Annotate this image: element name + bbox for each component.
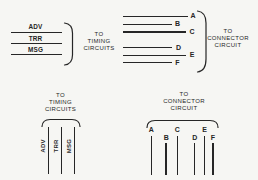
pin-label-d: D <box>175 44 183 51</box>
signal-line-trr <box>11 43 62 44</box>
pin-label-e: E <box>201 126 209 133</box>
pin-label-b: B <box>162 134 170 141</box>
destination-line: CONNECTOR <box>156 98 212 105</box>
destination-line: CIRCUIT <box>202 42 254 49</box>
pin-line-b <box>123 24 172 25</box>
destination-line: TO <box>202 28 254 35</box>
pin-line-a <box>123 16 188 17</box>
pin-line-d <box>123 47 172 48</box>
signal-line-adv <box>11 32 62 33</box>
signal-label-msg: MSG <box>23 46 48 53</box>
pin-line-c <box>177 136 179 176</box>
signal-label-adv: ADV <box>23 23 48 30</box>
destination-line: CIRCUIT <box>156 105 212 112</box>
signal-line-trr <box>61 127 63 174</box>
pin-line-e <box>123 55 186 56</box>
signal-label-adv: ADV <box>39 136 47 156</box>
pin-line-c <box>123 31 186 32</box>
top-brace-icon <box>41 118 81 127</box>
pin-label-b: B <box>174 20 182 27</box>
destination-line: TO <box>40 92 81 99</box>
destination-text-connector: TO CONNECTOR CIRCUIT <box>202 28 254 50</box>
pin-label-d: D <box>191 134 199 141</box>
destination-line: TIMING <box>40 99 81 106</box>
signal-line-msg <box>74 127 76 174</box>
destination-text-timing: TO TIMING CIRCUITS <box>79 31 119 53</box>
pin-label-e: E <box>188 51 196 58</box>
pin-label-f: F <box>174 59 182 66</box>
destination-line: TO <box>79 31 119 38</box>
pin-line-f <box>123 62 172 63</box>
pin-label-c: C <box>188 28 196 35</box>
destination-line: CIRCUITS <box>79 45 119 52</box>
destination-line: TO <box>156 91 212 98</box>
pin-line-b <box>165 143 167 175</box>
pin-line-d <box>194 143 196 175</box>
pin-label-f: F <box>209 134 217 141</box>
signal-line-adv <box>48 127 50 174</box>
pin-label-a: A <box>147 126 155 133</box>
pin-label-c: C <box>173 126 181 133</box>
destination-text-connector: TO CONNECTOR CIRCUIT <box>156 91 212 113</box>
destination-line: CONNECTOR <box>202 35 254 42</box>
signal-label-trr: TRR <box>23 35 48 42</box>
destination-text-timing: TO TIMING CIRCUITS <box>40 92 81 114</box>
destination-line: TIMING <box>79 38 119 45</box>
pin-line-e <box>204 136 206 176</box>
circuit-diagram: ADV TRR MSG TO TIMING CIRCUITS A B C D E… <box>0 0 258 180</box>
signal-label-msg: MSG <box>65 136 73 156</box>
right-brace-icon <box>63 22 75 66</box>
signal-line-msg <box>11 54 62 55</box>
pin-line-f <box>212 143 214 175</box>
signal-label-trr: TRR <box>52 136 60 156</box>
destination-line: CIRCUITS <box>40 106 81 113</box>
pin-line-a <box>151 136 153 176</box>
